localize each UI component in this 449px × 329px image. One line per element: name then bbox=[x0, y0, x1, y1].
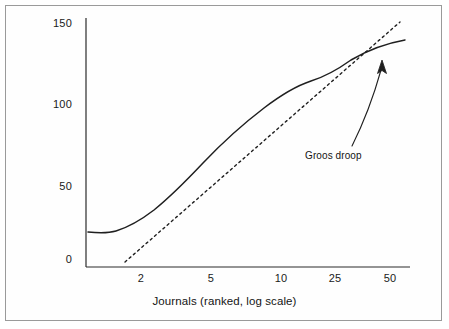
figure-container: 150 100 50 0 2 5 10 25 50 Journals (rank… bbox=[0, 0, 449, 329]
annotation-arrow bbox=[352, 60, 387, 146]
series-observed-solid bbox=[88, 40, 405, 233]
plot-area bbox=[0, 0, 449, 329]
series-bradford-extrapolation-dotted bbox=[125, 22, 400, 262]
